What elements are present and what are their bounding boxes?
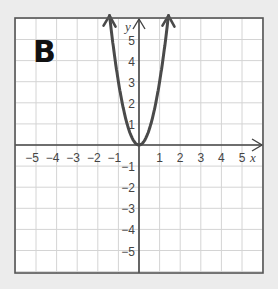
- y-tick-label: 5: [128, 34, 135, 48]
- x-tick-label: −2: [87, 151, 101, 165]
- graph: −5−4−3−2−11234554321−1−2−3−4−5 B x y: [0, 0, 278, 289]
- y-tick-label: 2: [128, 97, 135, 111]
- x-axis-label: x: [249, 150, 256, 165]
- x-tick-label: 1: [156, 151, 163, 165]
- x-tick-label: −5: [25, 151, 39, 165]
- y-tick-label: 4: [128, 55, 135, 69]
- x-tick-label: 4: [218, 151, 225, 165]
- x-tick-label: −1: [108, 151, 122, 165]
- y-axis-label: y: [123, 19, 131, 34]
- x-tick-label: 3: [197, 151, 204, 165]
- x-tick-label: −3: [66, 151, 80, 165]
- panel-label: B: [33, 34, 56, 69]
- y-tick-label: −5: [121, 245, 135, 259]
- y-tick-label: −3: [121, 202, 135, 216]
- y-tick-label: 3: [128, 76, 135, 90]
- x-tick-label: 2: [177, 151, 184, 165]
- y-tick-label: −2: [121, 181, 135, 195]
- x-tick-label: −4: [46, 151, 60, 165]
- x-tick-label: 5: [239, 151, 246, 165]
- y-tick-label: −1: [121, 160, 135, 174]
- y-tick-label: −4: [121, 223, 135, 237]
